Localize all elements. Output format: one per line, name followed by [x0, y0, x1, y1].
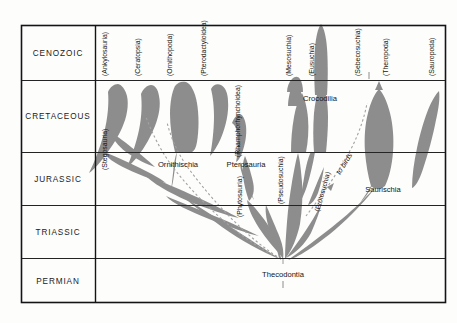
subgroup-label-ornithopoda: (Ornithopoda) — [166, 33, 174, 76]
spindle-diagram-svg: CENOZOIC CRETACEOUS JURASSIC TRIASSIC PE… — [0, 0, 457, 323]
subgroup-label-rhamphorhynchoidea: (Rhamphorhynchoidea) — [234, 85, 242, 157]
group-label-ornithischia: Ornithischia — [158, 160, 199, 169]
subgroup-label-sebecosuchia: (Sebecosuchia) — [354, 28, 362, 76]
period-label-triassic: TRIASSIC — [36, 228, 81, 237]
group-label-saurischia: Saurischia — [365, 185, 401, 194]
group-label-crocodilia: Crocodilia — [303, 94, 338, 103]
subgroup-label-theropoda: (Theropoda) — [382, 38, 390, 76]
subgroup-label-eusuchia: (Eusuchia) — [308, 43, 316, 76]
subgroup-label-sauropoda: (Sauropoda) — [428, 38, 436, 76]
diagram-root: CENOZOIC CRETACEOUS JURASSIC TRIASSIC PE… — [0, 0, 457, 323]
subgroup-label-pterodactyloidea: (Pterodactyloidea) — [200, 20, 208, 76]
spindle-eusuchia-neck — [313, 95, 328, 152]
subgroup-label-stegosauria: (Stegosauria) — [101, 129, 109, 170]
group-label-thecodontia: Thecodontia — [262, 270, 305, 279]
subgroup-label-pseudosuchia: (Pseudosuchia) — [277, 156, 285, 204]
period-label-jurassic: JURASSIC — [34, 175, 82, 184]
subgroup-label-ceratopsia: (Ceratopsia) — [134, 38, 142, 76]
spindle-diagram-figure: CENOZOIC CRETACEOUS JURASSIC TRIASSIC PE… — [0, 0, 457, 323]
subgroup-label-mesosuchia: (Mesosuchia) — [285, 35, 293, 76]
period-label-cretaceous: CRETACEOUS — [25, 112, 90, 121]
period-label-cenozoic: CENOZOIC — [33, 49, 83, 58]
spindle-mesosuchia-neck — [288, 92, 303, 106]
subgroup-label-phytosauria: (Phytosauria) — [236, 176, 244, 217]
subgroup-label-ankylosauria: (Ankylosauria) — [101, 32, 109, 76]
group-label-pterosauria: Pterosauria — [227, 160, 267, 169]
period-label-permian: PERMIAN — [36, 277, 80, 286]
